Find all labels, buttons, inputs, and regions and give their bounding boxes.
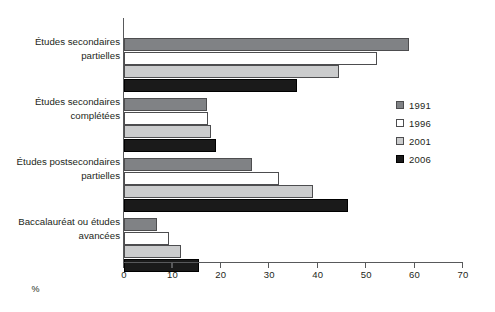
legend-swatch-icon-1996	[396, 119, 404, 127]
x-tick-label-60: 60	[400, 269, 430, 280]
x-tick-label-0: 0	[109, 269, 139, 280]
bar-chart: Études secondaires partielles Études sec…	[0, 0, 495, 312]
bar-1991-cat2	[124, 158, 252, 171]
chart-legend: 1991199620012006	[396, 96, 431, 168]
x-tick-label-10: 10	[157, 269, 187, 280]
legend-swatch-icon-2006	[396, 155, 404, 163]
bar-1996-cat3	[124, 232, 169, 245]
y-axis-line	[123, 18, 124, 263]
x-tick-label-30: 30	[254, 269, 284, 280]
x-tick-60	[414, 263, 415, 268]
bar-2001-cat2	[124, 185, 313, 198]
bar-2001-cat0	[124, 65, 339, 78]
category-label-3: Baccalauréat ou études avancées	[2, 215, 120, 242]
category-label-2: Études postsecondaires partielles	[2, 155, 120, 182]
x-tick-label-40: 40	[303, 269, 333, 280]
legend-item-1996[interactable]: 1996	[396, 114, 431, 132]
legend-swatch-icon-2001	[396, 137, 404, 145]
legend-label-1996: 1996	[409, 118, 431, 129]
legend-swatch-icon-1991	[396, 101, 404, 109]
category-label-0-line-0: Études secondaires	[2, 35, 120, 49]
x-axis-line	[123, 262, 463, 263]
bar-1996-cat0	[124, 52, 377, 65]
x-tick-40	[317, 263, 318, 268]
x-tick-30	[268, 263, 269, 268]
category-label-1-line-1: complétées	[2, 109, 120, 123]
x-tick-10	[171, 263, 172, 268]
bar-2006-cat1	[124, 139, 216, 152]
x-tick-20	[220, 263, 221, 268]
category-label-3-line-0: Baccalauréat ou études	[2, 215, 120, 229]
x-axis-title-text: %	[31, 284, 39, 294]
bar-1991-cat0	[124, 38, 409, 51]
bar-2006-cat2	[124, 199, 348, 212]
category-label-0-line-1: partielles	[2, 49, 120, 63]
legend-item-2001[interactable]: 2001	[396, 132, 431, 150]
legend-label-2006: 2006	[409, 154, 431, 165]
category-label-1-line-0: Études secondaires	[2, 95, 120, 109]
x-tick-label-50: 50	[351, 269, 381, 280]
category-axis-labels: Études secondaires partielles Études sec…	[0, 0, 120, 312]
x-tick-label-20: 20	[206, 269, 236, 280]
legend-item-1991[interactable]: 1991	[396, 96, 431, 114]
category-label-2-line-1: partielles	[2, 169, 120, 183]
x-tick-70	[462, 263, 463, 268]
bar-1991-cat3	[124, 218, 157, 231]
legend-item-2006[interactable]: 2006	[396, 150, 431, 168]
category-label-3-line-1: avancées	[2, 229, 120, 243]
category-label-2-line-0: Études postsecondaires	[2, 155, 120, 169]
x-axis-title: %	[0, 284, 495, 294]
x-tick-0	[123, 263, 124, 268]
bar-2001-cat3	[124, 245, 181, 258]
bar-1996-cat1	[124, 112, 208, 125]
bar-1996-cat2	[124, 172, 279, 185]
bar-2001-cat1	[124, 125, 211, 138]
legend-label-2001: 2001	[409, 136, 431, 147]
x-tick-50	[365, 263, 366, 268]
legend-label-1991: 1991	[409, 100, 431, 111]
category-label-1: Études secondaires complétées	[2, 95, 120, 122]
x-tick-label-70: 70	[448, 269, 478, 280]
bar-1991-cat1	[124, 98, 207, 111]
bar-2006-cat0	[124, 79, 297, 92]
category-label-0: Études secondaires partielles	[2, 35, 120, 62]
